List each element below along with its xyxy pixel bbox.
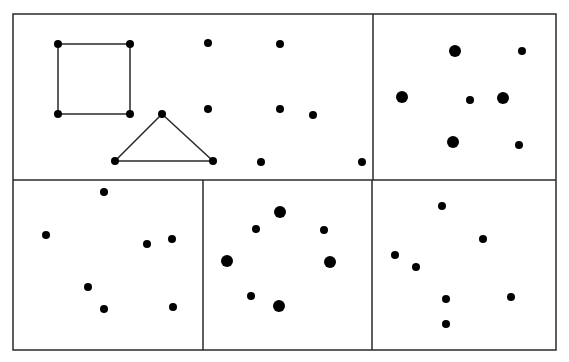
small-dot [42,231,50,239]
small-dot [442,295,450,303]
large-dot [447,136,459,148]
small-dot [479,235,487,243]
small-dot [466,96,474,104]
small-dot [276,40,284,48]
small-dot [100,305,108,313]
large-dot [273,300,285,312]
large-dot [274,206,286,218]
small-dot [247,292,255,300]
small-dot [320,226,328,234]
large-dot [221,255,233,267]
small-dot [169,303,177,311]
small-dot [412,263,420,271]
small-dot [507,293,515,301]
small-dot [252,225,260,233]
small-dot [54,110,62,118]
small-dot [100,188,108,196]
large-dot [324,256,336,268]
small-dot [358,158,366,166]
small-dot [391,251,399,259]
small-dot [111,157,119,165]
small-dot [442,320,450,328]
small-dot [209,157,217,165]
small-dot [168,235,176,243]
large-dot [449,45,461,57]
small-dot [204,39,212,47]
small-dot [518,47,526,55]
small-dot [515,141,523,149]
small-dot [257,158,265,166]
small-dot [126,110,134,118]
small-dot [438,202,446,210]
small-dot [158,110,166,118]
small-dot [309,111,317,119]
small-dot [204,105,212,113]
small-dot [143,240,151,248]
small-dot [84,283,92,291]
large-dot [497,92,509,104]
small-dot [276,105,284,113]
small-dot [126,40,134,48]
small-dot [54,40,62,48]
large-dot [396,91,408,103]
dot-pattern-diagram [0,0,569,362]
